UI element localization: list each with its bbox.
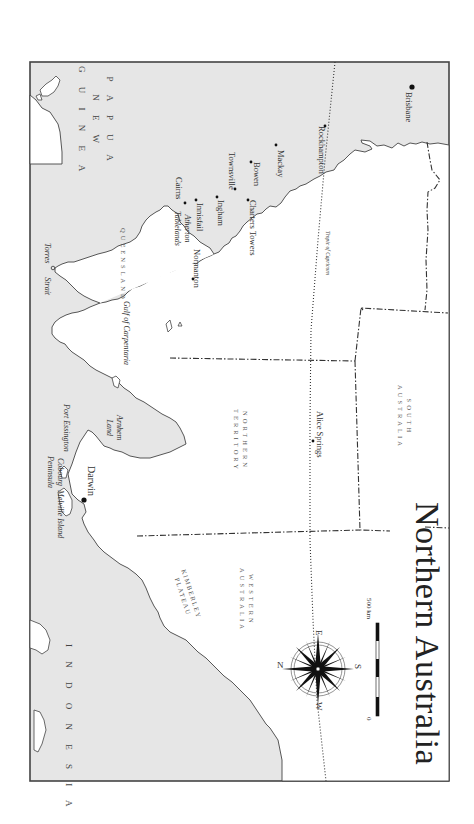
indonesia-text: I N D O N E S I A [64,644,74,813]
label-normanton: Normanton [192,249,202,288]
label-tropic-of-capricorn: Tropic of Capricorn [325,231,331,275]
scale-start: 0 [365,717,373,721]
label-rockhampton: Rockhampton [317,126,327,174]
queensland-text: QUEENSLAND [120,228,127,302]
label-northern-territory: NORTHERN TERRITORY [232,409,250,472]
label-bowen: Bowen [252,162,262,186]
torres-text: Torres [43,243,52,263]
strait-text: Strait [43,277,52,295]
label-innisfail: Innisfail [195,203,205,231]
nt-line1: NORTHERN [241,409,250,472]
rockhampton-text: Rockhampton [317,126,327,174]
label-townsville: Townsville [227,152,237,190]
png-line2: N E W [89,66,103,177]
atherton-line1: Atherton [182,211,192,246]
label-alice-springs: Alice Springs [315,411,325,458]
label-queensland: QUEENSLAND [119,228,128,302]
label-mackay: Mackay [276,150,286,177]
charters-towers-text: Charters Towers [248,200,258,256]
tropic-text: Tropic of Capricorn [325,231,331,275]
sa-line1: SOUTH [405,385,414,449]
compass-n: N [277,660,284,670]
scale-end-label: 500 km [365,598,373,619]
cobourg-line2: Peninsula [45,456,55,488]
wa-line1: WESTERN [247,568,256,632]
port-essington-text: Port Essington [62,404,71,452]
png-line3: G U I N E A [75,66,89,177]
label-south-australia: SOUTH AUSTRALIA [396,385,414,449]
label-arnhem-land: Arnhem Land [104,415,124,440]
alice-springs-text: Alice Springs [315,411,325,458]
label-cairns: Cairns [174,177,184,199]
label-torres-strait: Torres Strait [43,243,52,295]
label-darwin: Darwin [86,466,97,496]
townsville-text: Townsville [227,152,237,190]
compass-s-label: S [353,664,363,669]
melville-island-text: Melville Island [56,490,65,538]
darwin-text: Darwin [86,466,97,496]
compass-e: E [314,630,324,636]
label-indonesia: I N D O N E S I A [62,644,76,813]
label-atherton-tablelands: Atherton Tablelands [172,211,192,246]
sa-line2: AUSTRALIA [396,385,405,449]
atherton-line2: Tablelands [172,211,182,246]
label-gulf-of-carpentaria: Gulf of Carpentaria [122,301,131,365]
map-title: Northern Australia [408,502,446,765]
label-cobourg-peninsula: Cobourg Peninsula [45,456,65,488]
compass-e-label: E [314,630,324,636]
compass-w: W [314,702,324,711]
ingham-text: Ingham [216,200,226,226]
arnhem-line2: Land [104,415,114,440]
label-melville-island: Melville Island [56,490,65,538]
compass-n-label: N [277,660,284,670]
normanton-text: Normanton [192,249,202,288]
cairns-text: Cairns [174,177,184,199]
label-ingham: Ingham [216,200,226,226]
brisbane-text: Brisbane [404,92,414,122]
gulf-text: Gulf of Carpentaria [122,301,131,365]
scale-start-label: 0 [365,717,373,721]
map-title-text: Northern Australia [409,502,446,765]
cobourg-line1: Cobourg [55,456,65,488]
arnhem-line1: Arnhem [114,415,124,440]
label-charters-towers: Charters Towers [248,200,258,256]
compass-w-label: W [314,702,324,711]
nt-line2: TERRITORY [232,409,241,472]
label-port-essington: Port Essington [62,404,71,452]
label-western-australia: WESTERN AUSTRALIA [238,568,256,632]
png-line1: P A P U A [103,66,117,177]
label-papua-new-guinea: P A P U A N E W G U I N E A [75,66,117,177]
bowen-text: Bowen [252,162,262,186]
compass-s: S [353,664,363,669]
innisfail-text: Innisfail [195,203,205,231]
wa-line2: AUSTRALIA [238,568,247,632]
mackay-text: Mackay [276,150,286,177]
label-brisbane: Brisbane [404,92,414,122]
scale-end: 500 km [365,598,373,619]
scale-bar [376,623,379,716]
